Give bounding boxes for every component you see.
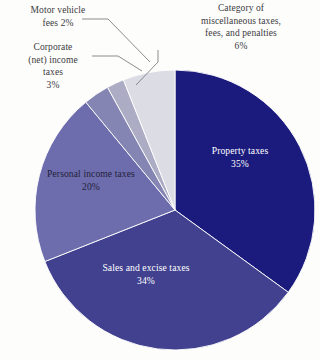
pie-slice-group bbox=[35, 70, 315, 350]
callout-label-motor-vehicle: Motor vehicle fees 2% bbox=[2, 4, 114, 29]
slice-label-personal-income-taxes: Personal income taxes 20% bbox=[22, 168, 160, 194]
slice-label-sales-and-excise-taxes: Sales and excise taxes 34% bbox=[78, 262, 214, 288]
slice-label-property-taxes: Property taxes 35% bbox=[186, 145, 294, 171]
callout-label-miscellaneous: Category of miscellaneous taxes, fees, a… bbox=[168, 2, 314, 52]
pie-chart: Motor vehicle fees 2% Corporate (net) in… bbox=[0, 0, 320, 360]
callout-label-corporate: Corporate (net) income taxes 3% bbox=[0, 41, 106, 91]
